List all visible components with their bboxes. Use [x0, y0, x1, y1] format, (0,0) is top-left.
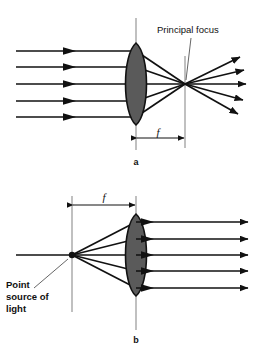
- optics-lens-figure: Principal focus f a: [0, 0, 259, 358]
- point-source-label-line-3: light: [6, 303, 27, 314]
- point-source-label-line-1: Point: [6, 279, 31, 290]
- panel-letter-b: b: [133, 335, 139, 345]
- principal-focus-label: Principal focus: [157, 24, 219, 35]
- point-source-dot: [69, 252, 75, 258]
- point-source-label-line-2: source of: [6, 291, 50, 302]
- converging-lens-a: [126, 43, 147, 125]
